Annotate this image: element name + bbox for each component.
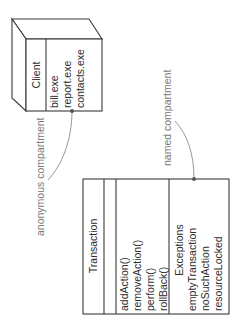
named-compartment-label: named compartment	[161, 70, 173, 166]
exception-item: noSuchAction	[199, 246, 211, 311]
anonymous-anchor-dot	[70, 109, 74, 113]
diagram-canvas: Client bill.exe report.exe contacts.exe …	[0, 0, 238, 323]
operation: removeAction()	[131, 240, 143, 311]
operation: perform()	[144, 268, 156, 311]
uml-diagram: Client bill.exe report.exe contacts.exe …	[0, 0, 238, 323]
client-node: Client bill.exe report.exe contacts.exe	[12, 19, 102, 111]
transaction-class: Transaction addAction() removeAction() p…	[83, 177, 229, 314]
node-artifact: contacts.exe	[74, 49, 86, 108]
node-name: Client	[30, 62, 42, 89]
named-anchor-dot	[192, 177, 196, 181]
anonymous-compartment-label: anonymous compartment	[34, 117, 46, 236]
anonymous-compartment-note: anonymous compartment	[34, 109, 74, 236]
node-artifact: bill.exe	[48, 75, 60, 108]
named-compartment-note: named compartment	[161, 70, 194, 179]
anonymous-leader-line	[48, 111, 72, 180]
operation: rollBack()	[157, 267, 169, 311]
operation: addAction()	[118, 257, 130, 311]
exceptions-compartment-title: Exceptions	[173, 224, 185, 275]
node-top-face	[12, 19, 102, 39]
class-name: Transaction	[87, 219, 99, 274]
named-leader-line	[175, 121, 194, 179]
exception-item: resourceLocked	[212, 236, 224, 311]
node-artifact: report.exe	[61, 61, 73, 108]
exception-item: emptyTransaction	[186, 228, 198, 311]
